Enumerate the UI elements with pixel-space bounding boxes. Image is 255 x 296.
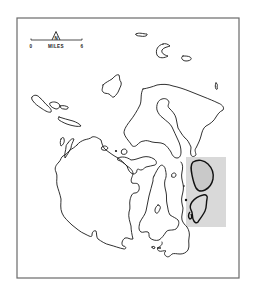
scale-unit-label: MILES	[48, 44, 64, 49]
islet-dot-shaded	[185, 199, 187, 201]
map-frame	[17, 18, 239, 278]
scale-start-label: 0	[30, 44, 33, 49]
islet-dot-east	[183, 185, 185, 187]
scale-end-label: 6	[81, 44, 84, 49]
north-label: N	[54, 36, 57, 41]
islet-dot-1	[115, 150, 117, 152]
map-canvas: 0 MILES 6 N	[0, 0, 255, 296]
